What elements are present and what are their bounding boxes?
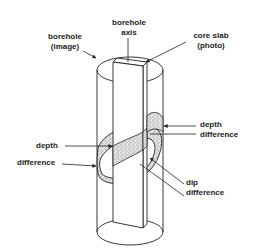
label-dip-difference: dip difference xyxy=(186,178,224,198)
label-borehole-axis-line1: borehole xyxy=(108,18,150,28)
label-core-slab-line2: (photo) xyxy=(188,41,234,51)
label-borehole-image-line2: (image) xyxy=(45,42,85,52)
label-difference-left-text: difference xyxy=(17,158,55,167)
label-depth-difference-right-line2: difference xyxy=(200,130,238,140)
label-difference-left: difference xyxy=(17,158,55,168)
borehole-core-diagram: borehole (image) borehole axis core slab… xyxy=(0,0,257,250)
label-core-slab: core slab (photo) xyxy=(188,31,234,51)
label-core-slab-line1: core slab xyxy=(188,31,234,41)
label-dip-difference-line1: dip xyxy=(186,178,224,188)
label-depth-difference-right: depth difference xyxy=(200,120,238,140)
label-depth-left-text: depth xyxy=(36,141,58,150)
label-borehole-axis: borehole axis xyxy=(108,18,150,38)
label-dip-difference-line2: difference xyxy=(186,188,224,198)
label-borehole-image-line1: borehole xyxy=(45,32,85,42)
core-slab xyxy=(113,58,147,228)
label-depth-left: depth xyxy=(36,141,58,151)
label-borehole-image: borehole (image) xyxy=(45,32,85,52)
label-depth-difference-right-line1: depth xyxy=(200,120,238,130)
borehole-bed-upper-right xyxy=(147,112,163,132)
label-borehole-axis-line2: axis xyxy=(108,28,150,38)
